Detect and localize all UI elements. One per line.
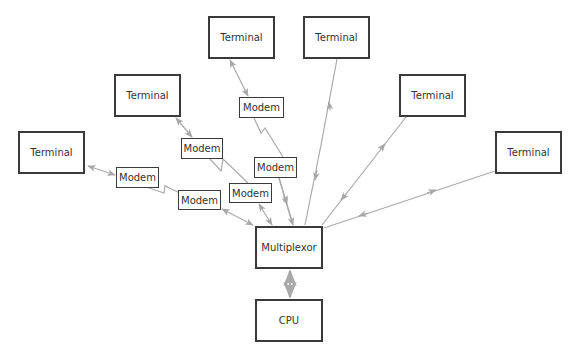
modem-d-box: Modem (116, 167, 159, 188)
arrow-terminal4-down (341, 194, 346, 200)
multiplexor-box: Multiplexor (255, 226, 323, 269)
terminal-3-box: Terminal (114, 74, 181, 117)
link-terminal2-multiplexor (305, 59, 337, 225)
terminal-1-box: Terminal (208, 16, 275, 59)
arrow-terminal4-up (380, 144, 385, 150)
link-modem-a-modem-c-zigzag (254, 118, 283, 157)
link-terminal1-modem-a (230, 60, 248, 96)
cpu-box: CPU (255, 299, 323, 342)
modem-c-box: Modem (254, 157, 297, 178)
arrow-terminal2-up (329, 102, 330, 110)
link-modem-f-multiplexor (259, 204, 272, 225)
terminal-6-box: Terminal (495, 131, 562, 174)
modem-a-box: Modem (239, 97, 284, 118)
modem-f-box: Modem (229, 183, 272, 203)
link-terminal5-modem-d (88, 166, 115, 175)
terminal-2-box: Terminal (303, 16, 370, 59)
terminal-4-box: Terminal (399, 74, 466, 117)
terminal-network-diagram: Terminal Terminal Terminal Terminal Term… (0, 0, 576, 356)
link-modem-e-multiplexor (222, 209, 253, 225)
link-modem-b-modem-f-zigzag (210, 159, 248, 183)
link-terminal3-modem-b (176, 118, 192, 137)
modem-b-box: Modem (181, 138, 223, 159)
link-terminal6-multiplexor (324, 171, 495, 228)
link-terminal4-multiplexor (322, 117, 406, 225)
arrowhead-modem-c (283, 195, 289, 203)
arrow-terminal6-in (359, 213, 368, 216)
terminal-5-box: Terminal (18, 131, 85, 174)
modem-e-box: Modem (178, 190, 221, 210)
